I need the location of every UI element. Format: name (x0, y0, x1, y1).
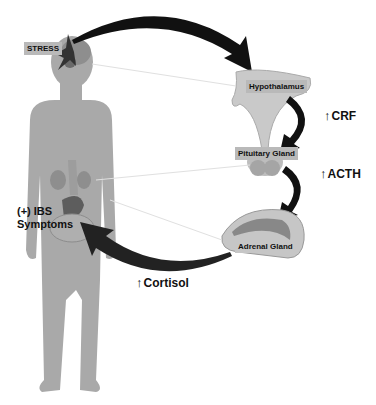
adrenal-gland-label: Adrenal Gland (235, 240, 296, 253)
crf-label: ↑CRF (324, 108, 356, 123)
hypothalamus-label: Hypothalamus (246, 80, 307, 93)
ibs-symptoms-label: (+) IBS Symptoms (17, 205, 73, 231)
up-arrow-icon: ↑ (324, 108, 331, 123)
cortisol-label: ↑Cortisol (136, 275, 189, 290)
arrow-cortisol (80, 222, 232, 271)
arrow-stress-to-hypothalamus (72, 16, 252, 72)
up-arrow-icon: ↑ (320, 166, 327, 181)
acth-label: ↑ACTH (320, 166, 361, 181)
diagram-graphics (0, 0, 376, 405)
up-arrow-icon: ↑ (136, 275, 143, 290)
pituitary-gland-label: Pituitary Gland (235, 147, 298, 160)
stress-label: STRESS (24, 42, 62, 55)
faint-connector-lines (92, 64, 250, 240)
